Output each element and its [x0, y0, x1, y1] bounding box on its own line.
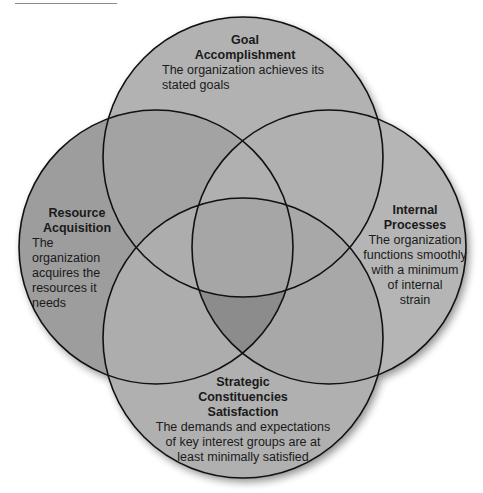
desc-line: of internal	[350, 278, 480, 293]
title-line: Acquisition	[32, 221, 122, 236]
label-goal-accomplishment: Goal Accomplishment The organization ach…	[160, 33, 330, 93]
label-resource-acquisition: Resource Acquisition The organization ac…	[32, 206, 122, 311]
title-line: Goal	[160, 33, 330, 48]
title-line: Satisfaction	[140, 405, 346, 420]
title-line: Constituencies	[140, 390, 346, 405]
title-line: Internal	[350, 203, 480, 218]
desc-line: acquires the	[32, 266, 122, 281]
title-line: Resource	[32, 206, 122, 221]
title-line: Processes	[350, 218, 480, 233]
desc-line: The organization achieves its	[160, 63, 330, 78]
desc-line: resources it	[32, 281, 122, 296]
title-line: Strategic	[140, 375, 346, 390]
desc-line: with a minimum	[350, 263, 480, 278]
desc-line: The organization	[32, 236, 122, 266]
title-line: Accomplishment	[160, 48, 330, 63]
label-strategic-constituencies: Strategic Constituencies Satisfaction Th…	[140, 375, 346, 465]
desc-line: functions smoothly	[350, 248, 480, 263]
desc-line: stated goals	[160, 78, 330, 93]
desc-line: least minimally satisfied	[140, 450, 346, 465]
label-internal-processes: Internal Processes The organization func…	[350, 203, 480, 308]
desc-line: needs	[32, 296, 122, 311]
desc-line: strain	[350, 293, 480, 308]
desc-line: of key interest groups are at	[140, 435, 346, 450]
desc-line: The organization	[350, 233, 480, 248]
desc-line: The demands and expectations	[140, 420, 346, 435]
